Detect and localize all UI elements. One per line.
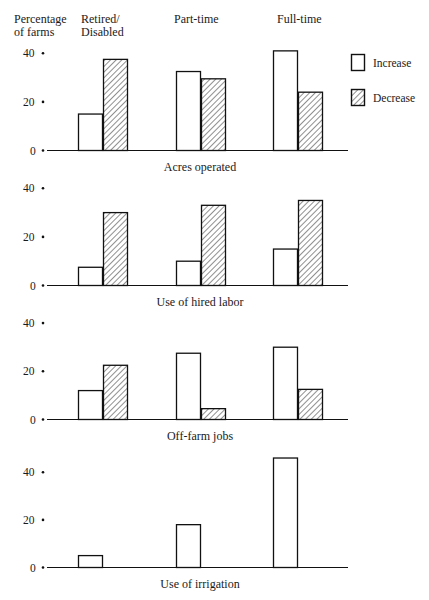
- panel-2: [42, 322, 348, 421]
- y-tick-dot: [42, 284, 45, 287]
- legend-swatch-decrease: [352, 90, 365, 106]
- y-tick-dot: [42, 322, 45, 325]
- bar-increase: [177, 353, 201, 419]
- y-tick-dot: [42, 418, 45, 421]
- y-tick-dot: [42, 471, 45, 474]
- y-tick-label: 40: [23, 317, 35, 329]
- bar-increase: [274, 51, 298, 151]
- bar-increase: [274, 249, 298, 285]
- bar-decrease: [202, 79, 226, 151]
- y-tick-label: 40: [23, 466, 35, 478]
- y-tick-dot: [42, 370, 45, 373]
- y-tick-label: 20: [23, 96, 35, 108]
- panel-1: [42, 187, 348, 287]
- y-tick-label: 40: [23, 182, 35, 194]
- bar-decrease: [202, 409, 226, 420]
- bar-increase: [79, 391, 103, 420]
- y-tick-dot: [42, 519, 45, 522]
- bar-increase: [79, 556, 103, 568]
- panel-3: [42, 458, 348, 569]
- y-tick-label: 20: [23, 514, 35, 526]
- legend-swatch-increase: [352, 55, 365, 71]
- y-tick-label: 20: [23, 231, 35, 243]
- y-tick-dot: [42, 236, 45, 239]
- panel-label: Use of irrigation: [160, 578, 239, 590]
- bar-decrease: [299, 92, 323, 150]
- bar-decrease: [104, 213, 128, 286]
- y-tick-label: 0: [30, 414, 36, 426]
- bar-decrease: [202, 205, 226, 285]
- panel-label: Off-farm jobs: [167, 430, 233, 442]
- y-tick-label: 20: [23, 365, 35, 377]
- panel-label: Use of hired labor: [157, 296, 244, 308]
- bar-increase: [274, 458, 298, 567]
- y-tick-dot: [42, 101, 45, 104]
- panel-0: [42, 51, 348, 152]
- bar-increase: [177, 525, 201, 568]
- bar-decrease: [104, 365, 128, 419]
- panel-label: Acres operated: [164, 161, 236, 173]
- legend: [352, 55, 365, 106]
- bar-decrease: [299, 389, 323, 419]
- bar-decrease: [104, 59, 128, 150]
- y-tick-dot: [42, 566, 45, 569]
- y-tick-dot: [42, 187, 45, 190]
- y-tick-dot: [42, 52, 45, 55]
- bar-decrease: [299, 200, 323, 285]
- y-tick-label: 0: [30, 280, 36, 292]
- bar-increase: [177, 261, 201, 285]
- bar-increase: [79, 114, 103, 150]
- y-tick-label: 40: [23, 47, 35, 59]
- bar-increase: [79, 267, 103, 285]
- bar-increase: [274, 347, 298, 419]
- y-tick-label: 0: [30, 145, 36, 157]
- y-tick-label: 0: [30, 562, 36, 574]
- bar-increase: [177, 72, 201, 151]
- y-tick-dot: [42, 149, 45, 152]
